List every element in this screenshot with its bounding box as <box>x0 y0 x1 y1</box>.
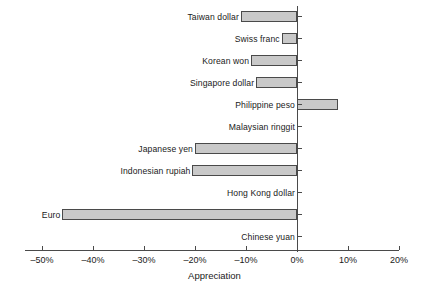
category-tick <box>298 170 302 171</box>
bar-row: Korean won <box>0 50 429 72</box>
category-tick <box>298 16 302 17</box>
category-label: Chinese yuan <box>241 226 295 248</box>
category-tick <box>298 214 302 215</box>
category-tick <box>298 38 302 39</box>
bar <box>192 165 297 176</box>
x-tick <box>297 246 298 250</box>
category-tick <box>298 148 302 149</box>
bar-row: Indonesian rupiah <box>0 160 429 182</box>
bar-row: Malaysian ringgit <box>0 116 429 138</box>
bar-chart: Taiwan dollarSwiss francKorean wonSingap… <box>0 0 429 288</box>
category-label: Indonesian rupiah <box>120 160 190 182</box>
category-label: Euro <box>42 204 61 226</box>
x-tick <box>348 246 349 250</box>
x-tick-label: –30% <box>132 255 155 265</box>
bar <box>195 143 297 154</box>
x-tick <box>399 246 400 250</box>
bar-row: Swiss franc <box>0 28 429 50</box>
x-tick <box>144 246 145 250</box>
category-label: Malaysian ringgit <box>229 116 295 138</box>
category-tick <box>298 104 302 105</box>
x-tick-label: –10% <box>234 255 257 265</box>
category-label: Philippine peso <box>235 94 295 116</box>
category-tick <box>298 126 302 127</box>
x-tick-label: 10% <box>339 255 357 265</box>
x-axis-line <box>25 250 399 251</box>
bar <box>62 209 297 220</box>
category-tick <box>298 82 302 83</box>
x-axis-title: Appreciation <box>0 270 429 281</box>
bar <box>256 77 297 88</box>
bar-row: Philippine peso <box>0 94 429 116</box>
category-label: Japanese yen <box>138 138 193 160</box>
category-tick <box>298 60 302 61</box>
x-tick-label: –50% <box>30 255 53 265</box>
bar-row: Taiwan dollar <box>0 6 429 28</box>
category-label: Singapore dollar <box>190 72 254 94</box>
x-tick <box>42 246 43 250</box>
bar <box>297 99 338 110</box>
bar-row: Japanese yen <box>0 138 429 160</box>
x-tick-label: –20% <box>183 255 206 265</box>
category-label: Korean won <box>202 50 249 72</box>
bar <box>251 55 297 66</box>
category-label: Swiss franc <box>235 28 280 50</box>
bar <box>282 33 297 44</box>
x-tick <box>93 246 94 250</box>
x-tick-label: 0% <box>290 255 303 265</box>
bar-row: Chinese yuan <box>0 226 429 248</box>
x-tick-label: 20% <box>390 255 408 265</box>
bar <box>241 11 297 22</box>
plot-area: Taiwan dollarSwiss francKorean wonSingap… <box>0 0 429 248</box>
x-tick <box>246 246 247 250</box>
category-label: Taiwan dollar <box>187 6 238 28</box>
category-tick <box>298 236 302 237</box>
category-label: Hong Kong dollar <box>227 182 295 204</box>
bar-row: Hong Kong dollar <box>0 182 429 204</box>
bar-row: Euro <box>0 204 429 226</box>
x-tick-label: –40% <box>81 255 104 265</box>
category-tick <box>298 192 302 193</box>
x-tick <box>195 246 196 250</box>
bar-row: Singapore dollar <box>0 72 429 94</box>
